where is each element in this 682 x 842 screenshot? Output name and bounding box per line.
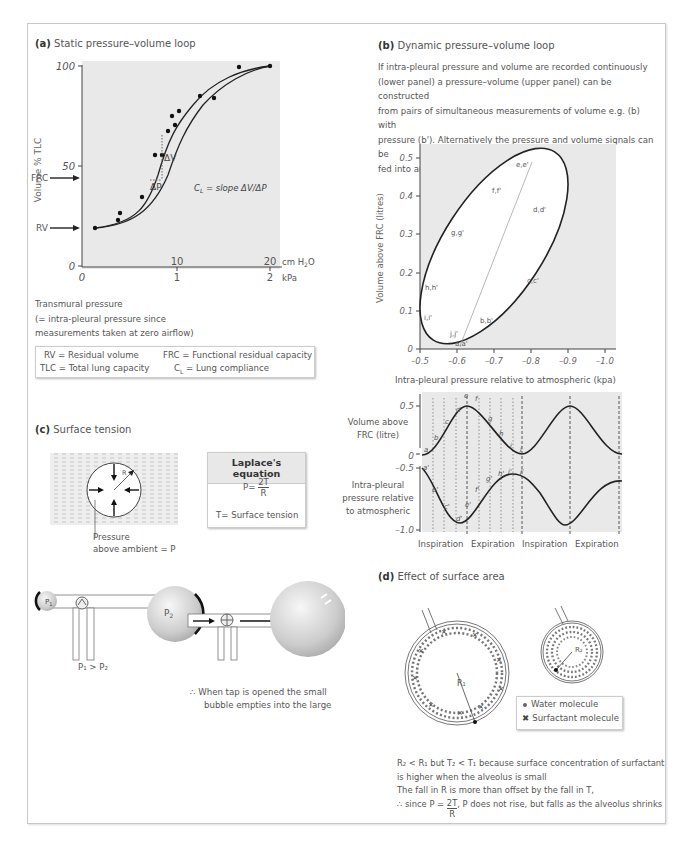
- svg-text:FRC: FRC: [31, 173, 48, 183]
- svg-text:×: ×: [412, 674, 418, 682]
- pressure-above-ambient-label: Pressure above ambient = P: [93, 531, 176, 555]
- svg-text:d: d: [456, 406, 461, 414]
- svg-text:b': b': [432, 486, 438, 494]
- svg-text:c': c': [444, 503, 450, 511]
- svg-text:×: ×: [498, 685, 504, 693]
- water-molecule-icon: [523, 703, 527, 707]
- laplace-formula: P= 2T R: [243, 477, 269, 498]
- svg-text:g: g: [488, 415, 493, 423]
- svg-text:50: 50: [62, 161, 75, 172]
- svg-text:RV: RV: [36, 223, 49, 233]
- svg-text:–1.0: –1.0: [395, 525, 414, 535]
- pressure-comparison: P₁ > P₂: [78, 660, 108, 675]
- svg-text:×: ×: [478, 703, 484, 711]
- svg-text:i': i': [508, 468, 512, 476]
- svg-text:a': a': [423, 464, 429, 472]
- svg-text:FRC (litre): FRC (litre): [357, 430, 399, 440]
- svg-text:kPa: kPa: [282, 273, 297, 283]
- legend-water: Water molecule: [517, 697, 622, 711]
- svg-text:j: j: [519, 445, 522, 453]
- svg-text:d': d': [456, 515, 462, 523]
- svg-text:g': g': [486, 475, 492, 483]
- svg-text:×: ×: [441, 628, 447, 636]
- svg-text:–0.7: –0.7: [485, 356, 503, 366]
- svg-text:e': e': [465, 501, 471, 509]
- panel-a-letter: (a): [35, 38, 51, 49]
- svg-text:–0.9: –0.9: [559, 356, 577, 366]
- svg-text:2: 2: [267, 272, 273, 283]
- svg-text:h: h: [499, 430, 503, 438]
- svg-text:ΔP: ΔP: [150, 182, 162, 192]
- svg-text:–1.0: –1.0: [596, 356, 614, 366]
- svg-text:0: 0: [79, 272, 85, 283]
- svg-text:e,e': e,e': [516, 161, 529, 169]
- svg-text:a,a': a,a': [455, 340, 468, 348]
- transmural-pressure-caption: Transmural pressure (= intra-pleural pre…: [35, 297, 194, 341]
- svg-text:Volume % TLC: Volume % TLC: [33, 138, 43, 203]
- svg-text:1: 1: [174, 272, 180, 283]
- svg-text:0.5: 0.5: [399, 153, 413, 163]
- svg-text:c,c': c,c': [527, 277, 539, 285]
- laplace-equation-box: Laplace's equation P= 2T R T= Surface te…: [207, 452, 306, 528]
- surfactant-molecule-icon: ✖: [522, 713, 529, 723]
- waveform-chart: 0.5 0 –0.5 –1.0 Volume above FRC (litre)…: [340, 388, 670, 548]
- svg-text:h,h': h,h': [425, 284, 438, 292]
- svg-text:R: R: [122, 469, 127, 477]
- svg-text:–0.8: –0.8: [522, 356, 540, 366]
- svg-text:b: b: [434, 434, 439, 442]
- plot-background: [82, 61, 280, 269]
- svg-text:–0.5: –0.5: [411, 356, 429, 366]
- svg-text:0.2: 0.2: [399, 268, 413, 278]
- svg-text:10: 10: [171, 256, 184, 267]
- svg-text:to atmospheric: to atmospheric: [346, 506, 411, 516]
- bubble-apparatus: P1 P2: [25, 580, 345, 690]
- svg-text:R₂: R₂: [575, 646, 583, 654]
- dynamic-pv-loop-chart: 0.50.40.3 0.20.10 –0.5–0.6–0.7 –0.8–0.9–…: [370, 140, 670, 380]
- panel-c-title: (c) Surface tension: [35, 424, 131, 435]
- svg-text:×: ×: [418, 647, 424, 655]
- svg-text:0.3: 0.3: [399, 229, 413, 239]
- svg-text:0.1: 0.1: [399, 306, 413, 316]
- svg-text:×: ×: [496, 656, 502, 664]
- surface-area-explanation: R₂ < R₁ but T₂ < T₁ because surface conc…: [397, 757, 664, 819]
- svg-text:0.4: 0.4: [399, 191, 413, 201]
- svg-text:20: 20: [264, 256, 277, 267]
- svg-text:i,i': i,i': [424, 314, 432, 322]
- static-pv-chart: 100 50 0 0 1 2 10 20 cm H2O kPa Volume %…: [28, 55, 338, 295]
- cl-legend: CL = Lung compliance: [174, 361, 269, 379]
- loop-x-axis-label: Intra-pleural pressure relative to atmos…: [395, 373, 616, 388]
- svg-text:Intra-pleural: Intra-pleural: [352, 480, 404, 490]
- abbreviation-legend: RV = Residual volume TLC = Total lung ca…: [35, 346, 315, 378]
- panel-a-title: (a) Static pressure–volume loop: [35, 38, 196, 49]
- svg-text:j': j': [519, 468, 524, 476]
- svg-text:i: i: [510, 442, 512, 450]
- svg-text:0: 0: [69, 261, 75, 272]
- svg-text:R₁: R₁: [457, 679, 466, 688]
- svg-text:f,f': f,f': [492, 187, 501, 195]
- svg-text:d,d': d,d': [533, 206, 546, 214]
- svg-text:cm H2O: cm H2O: [282, 257, 315, 268]
- svg-text:CL = slope ΔV/ΔP: CL = slope ΔV/ΔP: [194, 183, 267, 194]
- svg-text:e: e: [464, 392, 468, 400]
- svg-text:c: c: [445, 418, 449, 426]
- svg-text:×: ×: [457, 709, 463, 717]
- svg-text:f': f': [475, 486, 479, 494]
- molecule-legend: Water molecule ✖Surfactant molecule: [516, 696, 623, 730]
- svg-text:0.5: 0.5: [400, 401, 415, 411]
- svg-text:b,b': b,b': [480, 317, 493, 325]
- svg-text:Volume above: Volume above: [348, 417, 408, 427]
- svg-text:pressure relative: pressure relative: [342, 493, 413, 503]
- svg-text:–0.6: –0.6: [448, 356, 466, 366]
- svg-text:j,j': j,j': [449, 330, 458, 338]
- svg-text:Volume above FRC (litres): Volume above FRC (litres): [375, 193, 385, 303]
- laplace-definition: T= Surface tension: [216, 508, 298, 523]
- svg-text:ΔV: ΔV: [164, 153, 177, 163]
- panel-b-title: (b) Dynamic pressure–volume loop: [378, 40, 555, 51]
- panel-d-title: (d) Effect of surface area: [378, 571, 505, 582]
- svg-text:×: ×: [472, 631, 478, 639]
- svg-text:×: ×: [428, 701, 434, 709]
- svg-text:0: 0: [408, 451, 414, 461]
- svg-text:a: a: [424, 446, 428, 454]
- svg-text:g,g': g,g': [451, 229, 464, 237]
- svg-text:h': h': [498, 470, 504, 478]
